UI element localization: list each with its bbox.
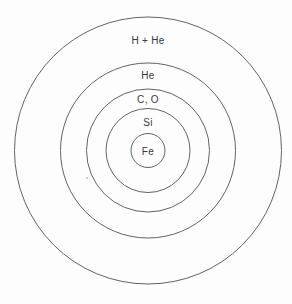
- shell-label-h-he: H + He: [131, 35, 164, 46]
- scan-artifact-dot: [86, 177, 88, 179]
- shell-label-he: He: [141, 70, 155, 81]
- concentric-shells-diagram: H + HeHeC, OSiFe: [0, 0, 292, 304]
- diagram-canvas: H + HeHeC, OSiFe: [0, 0, 292, 304]
- shell-label-c-o: C, O: [137, 94, 159, 105]
- shell-label-fe: Fe: [142, 146, 154, 157]
- shell-label-si: Si: [143, 117, 153, 128]
